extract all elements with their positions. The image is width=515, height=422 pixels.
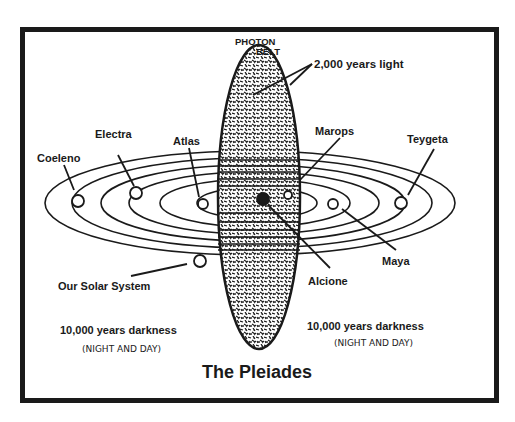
label-maya: Maya [382, 255, 410, 267]
label-teygeta: Teygeta [407, 133, 449, 145]
star-alcione [257, 193, 269, 205]
pleiades-diagram: PHOTON BELT 2,000 years light Coeleno El… [0, 0, 515, 422]
label-atlas: Atlas [173, 135, 200, 147]
star-maya [328, 199, 338, 209]
label-alcione: Alcione [308, 275, 348, 287]
photon-belt-label-2: BELT [256, 46, 280, 57]
star-teygeta [395, 197, 407, 209]
darkness-right-sublabel: (NIGHT AND DAY) [334, 338, 413, 348]
star-marops [284, 191, 292, 199]
star-electra [130, 187, 142, 199]
light-annotation: 2,000 years light [314, 58, 404, 70]
darkness-right-label: 10,000 years darkness [307, 320, 424, 332]
label-coeleno: Coeleno [37, 152, 81, 164]
label-our-solar-system: Our Solar System [58, 280, 151, 292]
star-coeleno [72, 195, 84, 207]
darkness-left-sublabel: (NIGHT AND DAY) [82, 344, 161, 354]
label-electra: Electra [95, 128, 133, 140]
star-our-solar-system [194, 255, 206, 267]
diagram-title: The Pleiades [202, 362, 312, 382]
label-marops: Marops [315, 125, 354, 137]
darkness-left-label: 10,000 years darkness [60, 324, 177, 336]
star-atlas [198, 199, 208, 209]
